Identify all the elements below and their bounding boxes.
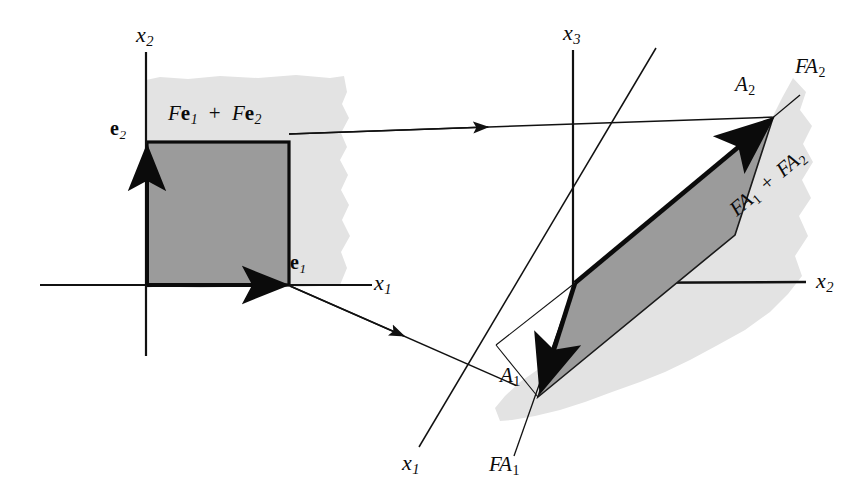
- vector-label-e2: e2: [110, 117, 126, 143]
- region-label-fe-sum: Fe1 + Fe2: [168, 101, 262, 128]
- vector-label-A2: A2: [735, 72, 755, 99]
- axis-label-x3: x3: [563, 20, 581, 48]
- axis-label-x1-left: x1: [374, 270, 392, 298]
- diagram-svg: [0, 0, 854, 503]
- edge-label-FA2: FA2: [795, 54, 825, 81]
- axis-label-x2-right: x2: [816, 268, 834, 296]
- axis-label-x1-right: x1: [402, 450, 420, 478]
- vector-label-e1: e1: [290, 251, 306, 277]
- edge-label-FA1: FA1: [489, 452, 519, 479]
- figure-canvas: x2 x1 e2 e1 Fe1 + Fe2 x3 x2 x1 A2 A1 FA2…: [0, 0, 854, 503]
- vector-label-A1: A1: [500, 363, 520, 390]
- unit-square: [147, 142, 289, 285]
- axis-label-x2-left: x2: [136, 22, 154, 50]
